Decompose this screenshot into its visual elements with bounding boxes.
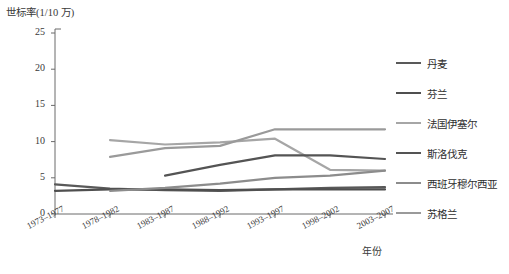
series-line [55,189,385,190]
legend-label: 西班牙穆尔西亚 [427,176,497,191]
y-tick-label: 20 [19,62,45,73]
legend-label: 斯洛伐克 [427,146,467,161]
series-line [110,139,385,171]
legend-item[interactable]: 斯洛伐克 [396,138,509,168]
legend-label: 苏格兰 [427,206,457,221]
legend-item[interactable]: 苏格兰 [396,198,509,228]
legend-item[interactable]: 芬兰 [396,78,509,108]
y-tick-label: 10 [19,135,45,146]
legend-item[interactable]: 法国伊塞尔 [396,108,509,138]
y-tick-label: 5 [19,171,45,182]
legend-swatch-icon [396,152,421,155]
legend-item[interactable]: 丹麦 [396,48,509,78]
legend-item[interactable]: 西班牙穆尔西亚 [396,168,509,198]
legend-swatch-icon [396,62,421,65]
legend-label: 法国伊塞尔 [427,116,477,131]
legend-swatch-icon [396,212,421,215]
line-chart: 世标率(1/10 万) 年份 0510152025 1973–19771978–… [0,0,509,274]
chart-legend: 丹麦芬兰法国伊塞尔斯洛伐克西班牙穆尔西亚苏格兰 [396,48,509,228]
legend-swatch-icon [396,92,421,95]
y-tick-label: 15 [19,98,45,109]
legend-label: 丹麦 [427,56,447,71]
y-tick-label: 25 [19,26,45,37]
legend-swatch-icon [396,122,421,125]
legend-swatch-icon [396,182,421,185]
legend-label: 芬兰 [427,86,447,101]
